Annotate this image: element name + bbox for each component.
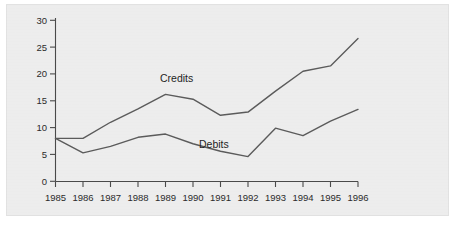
y-axis-ticks [50,20,56,181]
y-tick-label: 0 [42,176,47,187]
series-line-credits [56,39,359,139]
x-tick-label: 1996 [347,192,368,203]
x-tick-label: 1991 [210,192,231,203]
x-tick-label: 1989 [155,192,176,203]
x-tick-label: 1988 [127,192,148,203]
x-tick-label: 1986 [72,192,93,203]
x-tick-label: 1987 [100,192,121,203]
y-tick-label: 25 [36,42,47,53]
y-tick-label: 20 [36,68,47,79]
x-tick-label: 1990 [182,192,203,203]
chart-svg: 30 25 20 15 10 5 0 1985 1986 1 [0,0,459,227]
y-tick-label: 10 [36,122,47,133]
y-tick-label: 5 [42,149,47,160]
credits-series-label: Credits [160,72,193,84]
x-axis-tick-labels: 1985 1986 1987 1988 1989 1990 1991 1992 … [45,192,369,203]
x-tick-label: 1985 [45,192,66,203]
x-tick-label: 1995 [320,192,341,203]
y-tick-label: 15 [36,95,47,106]
y-tick-label: 30 [36,15,47,26]
x-tick-label: 1993 [265,192,286,203]
x-tick-label: 1994 [292,192,313,203]
y-axis-tick-labels: 30 25 20 15 10 5 0 [36,15,47,187]
x-axis-ticks [56,182,359,188]
x-tick-label: 1992 [237,192,258,203]
line-chart-figure: 30 25 20 15 10 5 0 1985 1986 1 [0,0,459,227]
debits-series-label: Debits [199,138,229,150]
